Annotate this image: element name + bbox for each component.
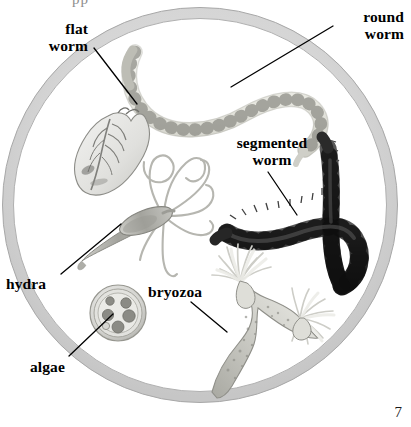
cropped-header-text: pp xyxy=(72,0,89,8)
label-hydra: hydra xyxy=(6,275,82,292)
leader-line-bryozoa xyxy=(191,302,227,332)
label-segmented-worm: segmented worm xyxy=(212,134,332,168)
label-flat-worm: flat worm xyxy=(8,20,88,54)
label-round-worm: round worm xyxy=(296,8,404,42)
leader-line-hydra xyxy=(61,224,121,274)
leader-line-segmented-worm xyxy=(268,172,297,215)
organism-algae xyxy=(90,285,146,341)
label-algae: algae xyxy=(30,358,106,375)
label-bryozoa: bryozoa xyxy=(148,283,234,300)
page-number: 7 xyxy=(395,404,403,421)
organism-flat-worm xyxy=(75,108,150,195)
organism-bryozoa xyxy=(212,244,334,398)
